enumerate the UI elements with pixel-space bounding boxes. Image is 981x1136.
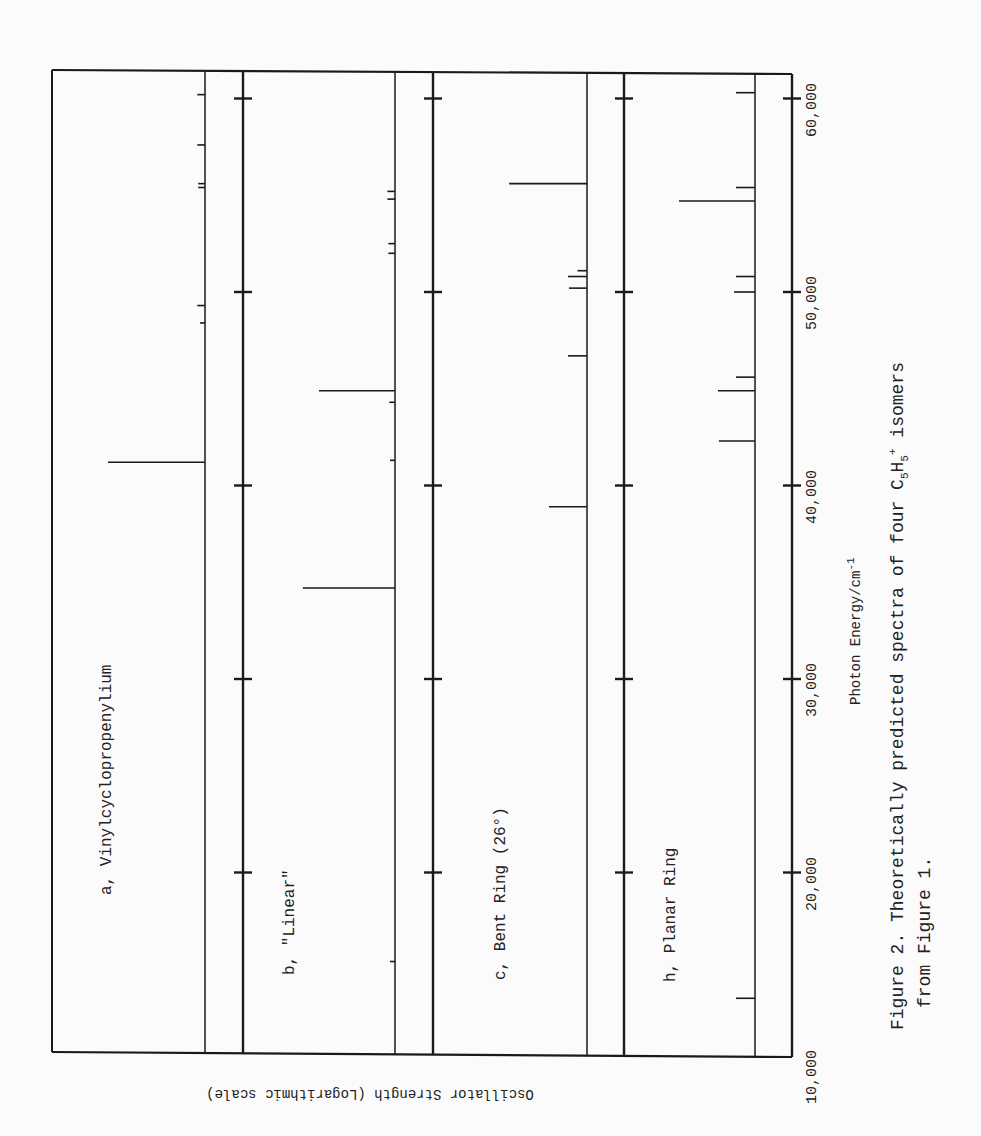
caption-sub-2: 5	[899, 455, 911, 462]
x-axis-title-sup: -1	[845, 557, 857, 570]
panel-label-b: b, "Linear"	[281, 869, 299, 975]
y-axis-title: Oscillator Strength (Logarithmic scale)	[90, 1086, 650, 1102]
tick-label: 30,000	[804, 663, 821, 717]
x-axis-title-text: Photon Energy/cm	[848, 571, 864, 705]
tick-label: 60,000	[804, 82, 821, 136]
caption-sub: 5	[899, 473, 911, 480]
plot-frame	[52, 70, 792, 1057]
caption-line-1: Figure 2. Theoretically predicted spectr…	[883, 362, 915, 1030]
caption-text: Figure 2. Theoretically predicted spectr…	[888, 479, 908, 1030]
caption-text-end: isomers	[888, 362, 908, 448]
tick-label: 40,000	[804, 469, 821, 523]
axis-ticks	[234, 99, 801, 873]
tick-label: 20,000	[804, 856, 821, 910]
panel-label-a: a, Vinylcyclopropenylium	[98, 665, 116, 895]
panel-label-h: h, Planar Ring	[662, 848, 680, 982]
caption-sup: +	[887, 448, 899, 455]
x-axis-title: Photon Energy/cm-1	[845, 557, 864, 705]
spectra-plot	[0, 0, 981, 1136]
caption-line-2: from Figure 1.	[915, 362, 935, 1030]
tick-label: 10,000	[804, 1050, 821, 1104]
caption-text-h: H	[888, 462, 908, 473]
tick-label: 50,000	[804, 276, 821, 330]
figure-caption: Figure 2. Theoretically predicted spectr…	[883, 362, 935, 1030]
panel-label-c: c, Bent Ring (26°)	[492, 807, 510, 980]
